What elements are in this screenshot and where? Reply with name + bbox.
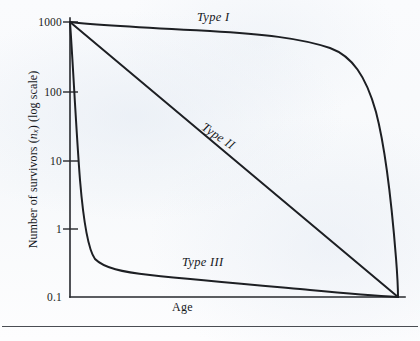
y-axis-title-suffix: ) (log scale) <box>26 71 40 130</box>
y-axis-title: Number of survivors (nx) (log scale) <box>26 45 41 275</box>
x-axis-title: Age <box>172 300 193 315</box>
curve-type-2 <box>70 22 398 297</box>
y-axis-title-prefix: Number of survivors ( <box>26 139 40 248</box>
curve-label-type-1: Type I <box>197 10 229 25</box>
y-tick-label-1000: 1000 <box>18 16 62 28</box>
y-tick-label-0-1: 0.1 <box>18 291 62 303</box>
plot-canvas <box>0 0 420 341</box>
survivorship-curves-figure: 1000 100 10 1 0.1 Number of survivors (n… <box>0 0 420 341</box>
y-axis-title-variable: n <box>26 133 40 139</box>
bottom-horizontal-rule <box>2 326 418 327</box>
curve-label-type-3: Type III <box>182 255 223 270</box>
y-axis-title-subscript: x <box>30 129 40 133</box>
